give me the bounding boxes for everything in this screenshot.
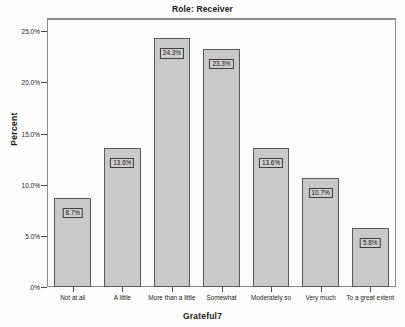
y-axis-tick-mark xyxy=(41,134,47,135)
y-axis-tick-mark xyxy=(41,82,47,83)
bar[interactable]: 13.6% xyxy=(253,148,290,287)
x-axis-tick-label: To a great extent xyxy=(339,294,401,302)
y-axis-tick-mark xyxy=(41,31,47,32)
bar[interactable]: 13.6% xyxy=(104,148,141,287)
y-axis-tick-label: 15.0% xyxy=(0,130,40,137)
y-axis-tick-label: 20.0% xyxy=(0,79,40,86)
bar[interactable]: 24.3% xyxy=(154,38,191,287)
bar-value-label: 5.8% xyxy=(360,238,381,248)
bar-value-label: 13.6% xyxy=(110,158,134,168)
y-axis-tick-mark xyxy=(41,185,47,186)
x-axis-tick-mark xyxy=(222,287,223,292)
y-axis-tick-label: .0% xyxy=(0,284,40,291)
x-axis-tick-mark xyxy=(122,287,123,292)
y-axis-tick-label: 5.0% xyxy=(0,232,40,239)
x-axis-tick-mark xyxy=(73,287,74,292)
plot-area: 8.7%13.6%24.3%23.3%13.6%10.7%5.8% xyxy=(48,19,395,287)
y-axis-tick-mark xyxy=(41,287,47,288)
x-axis-tick-mark xyxy=(271,287,272,292)
chart-title: Role: Receiver xyxy=(0,4,405,14)
bar-value-label: 24.3% xyxy=(160,48,184,58)
y-axis-tick-label: 25.0% xyxy=(0,28,40,35)
bar[interactable]: 8.7% xyxy=(54,198,91,287)
y-axis-tick-mark xyxy=(41,236,47,237)
x-axis-title: Grateful7 xyxy=(0,311,405,321)
bar-chart: Role: Receiver Percent .0%5.0%10.0%15.0%… xyxy=(0,0,405,327)
bar[interactable]: 5.8% xyxy=(352,228,389,287)
bar-value-label: 23.3% xyxy=(209,59,233,69)
x-axis-tick-mark xyxy=(321,287,322,292)
y-axis-tick-label: 10.0% xyxy=(0,181,40,188)
bar-value-label: 10.7% xyxy=(309,188,333,198)
x-axis-tick-mark xyxy=(370,287,371,292)
x-axis-tick-mark xyxy=(172,287,173,292)
bar[interactable]: 10.7% xyxy=(302,178,339,287)
bar[interactable]: 23.3% xyxy=(203,49,240,287)
bar-value-label: 13.6% xyxy=(259,158,283,168)
y-axis-title: Percent xyxy=(9,89,19,169)
bar-value-label: 8.7% xyxy=(62,208,83,218)
